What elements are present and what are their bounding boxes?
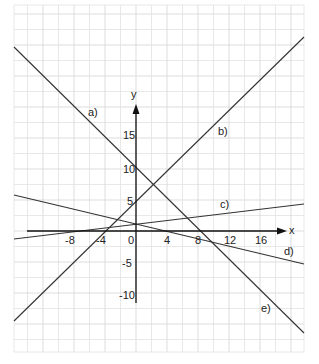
plot-lines xyxy=(14,37,304,333)
y-tick-label: 5 xyxy=(127,196,133,207)
y-tick-label: 15 xyxy=(123,130,135,141)
chart-canvas xyxy=(0,0,319,364)
x-tick-label: 12 xyxy=(224,235,236,246)
x-tick-label: 16 xyxy=(255,235,267,246)
x-axis-label: x xyxy=(289,225,295,236)
y-tick-label: -5 xyxy=(122,258,132,269)
line-a-e xyxy=(14,47,304,333)
origin-label: 0 xyxy=(128,235,134,246)
x-tick-label: -8 xyxy=(65,235,75,246)
x-tick-label: 8 xyxy=(195,235,201,246)
line-b xyxy=(14,37,304,321)
line-d xyxy=(14,195,304,264)
y-tick-label: -10 xyxy=(119,290,135,301)
x-axis-arrow-icon xyxy=(277,228,287,235)
line-e-label: e) xyxy=(261,303,271,314)
line-c-label: c) xyxy=(220,199,229,210)
line-d-label: d) xyxy=(284,246,294,257)
x-tick-label: 4 xyxy=(164,235,170,246)
x-tick-label: -4 xyxy=(96,235,106,246)
line-a-label: a) xyxy=(88,107,98,118)
line-b-label: b) xyxy=(218,126,228,137)
y-axis-label: y xyxy=(131,89,137,100)
y-axis-arrow-icon xyxy=(133,104,140,114)
y-tick-label: 10 xyxy=(123,164,135,175)
axes xyxy=(27,110,280,303)
